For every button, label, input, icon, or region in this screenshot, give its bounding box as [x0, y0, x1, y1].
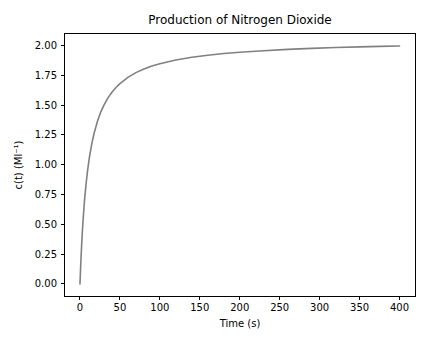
x-tick-label: 0 [77, 302, 83, 313]
x-tick-label: 150 [190, 302, 209, 313]
x-axis-label: Time (s) [64, 318, 416, 329]
y-tick-label: 0.00 [35, 278, 57, 289]
y-tick-label: 0.75 [35, 189, 57, 200]
axes-spines [64, 34, 416, 297]
no2-concentration-curve [80, 46, 400, 284]
y-axis-label: c(t) (Ml⁻¹) [13, 141, 24, 190]
y-tick-label: 0.50 [35, 219, 57, 230]
y-tick-label: 0.25 [35, 249, 57, 260]
x-tick-label: 300 [310, 302, 329, 313]
x-tick-label: 100 [150, 302, 169, 313]
x-tick-label: 200 [230, 302, 249, 313]
x-axis-ticks: 050100150200250300350400 [77, 297, 409, 314]
x-tick-label: 350 [350, 302, 369, 313]
x-tick-label: 250 [270, 302, 289, 313]
x-tick-label: 50 [114, 302, 127, 313]
figure-title: Production of Nitrogen Dioxide [64, 13, 416, 27]
figure: 0501001502002503003504000.000.250.500.75… [0, 0, 442, 350]
y-tick-label: 1.75 [35, 70, 57, 81]
y-tick-label: 1.00 [35, 159, 57, 170]
y-axis-ticks: 0.000.250.500.751.001.251.501.752.00 [35, 40, 64, 290]
x-tick-label: 400 [390, 302, 409, 313]
chart-canvas: 0501001502002503003504000.000.250.500.75… [0, 0, 442, 350]
y-tick-label: 1.50 [35, 100, 57, 111]
y-tick-label: 1.25 [35, 129, 57, 140]
y-tick-label: 2.00 [35, 40, 57, 51]
